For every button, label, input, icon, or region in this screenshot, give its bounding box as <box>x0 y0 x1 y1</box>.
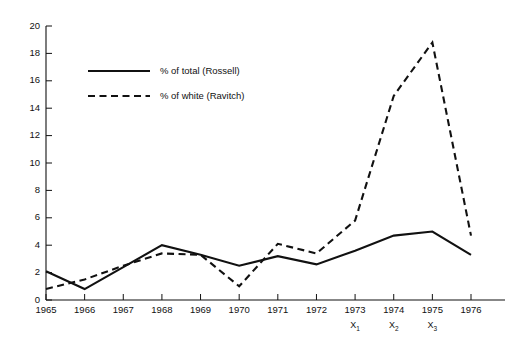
y-tick-label: 20 <box>29 20 40 31</box>
legend-label-1: % of total (Rossell) <box>160 65 240 76</box>
x-tick-label: 1972 <box>306 304 327 315</box>
x-tick-label: 1973 <box>345 304 366 315</box>
y-tick-label: 2 <box>35 266 40 277</box>
chart-legend: % of total (Rossell)% of white (Ravitch) <box>88 65 244 101</box>
x-tick-label: 1965 <box>35 304 56 315</box>
x-axis-intervention-labels: X1X2X3 <box>350 320 437 332</box>
x-tick-label: 1967 <box>113 304 134 315</box>
y-axis: 02468101214161820 <box>29 20 52 305</box>
line-chart: 02468101214161820 1965196619671968196919… <box>0 0 522 341</box>
y-axis-tick-labels: 02468101214161820 <box>29 20 40 305</box>
series-line-2 <box>46 42 471 289</box>
x-axis-ticks <box>46 294 471 300</box>
x-intervention-label: X1 <box>350 320 360 332</box>
x-tick-label: 1975 <box>422 304 443 315</box>
data-series-group <box>46 42 471 289</box>
x-axis: 1965196619671968196919701971197219731974… <box>35 294 505 332</box>
x-axis-tick-labels: 1965196619671968196919701971197219731974… <box>35 304 481 315</box>
x-tick-label: 1969 <box>190 304 211 315</box>
x-tick-label: 1974 <box>383 304 404 315</box>
y-tick-label: 4 <box>35 239 40 250</box>
x-tick-label: 1968 <box>151 304 172 315</box>
x-intervention-label: X2 <box>389 320 399 332</box>
y-tick-label: 14 <box>29 102 40 113</box>
y-tick-label: 12 <box>29 129 40 140</box>
x-tick-label: 1970 <box>229 304 250 315</box>
x-tick-label: 1966 <box>74 304 95 315</box>
y-tick-label: 10 <box>29 157 40 168</box>
y-tick-label: 8 <box>35 184 40 195</box>
series-line-1 <box>46 232 471 290</box>
x-tick-label: 1971 <box>267 304 288 315</box>
y-tick-label: 18 <box>29 47 40 58</box>
x-tick-label: 1976 <box>460 304 481 315</box>
legend-label-2: % of white (Ravitch) <box>160 90 244 101</box>
y-tick-label: 6 <box>35 211 40 222</box>
y-tick-label: 0 <box>35 294 40 305</box>
y-tick-label: 16 <box>29 74 40 85</box>
chart-figure: 02468101214161820 1965196619671968196919… <box>0 0 522 341</box>
x-intervention-label: X3 <box>428 320 438 332</box>
y-axis-ticks <box>46 26 52 300</box>
